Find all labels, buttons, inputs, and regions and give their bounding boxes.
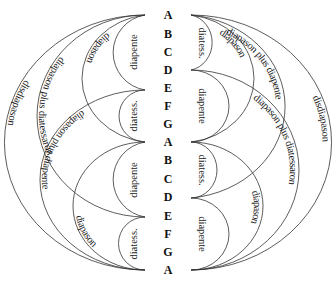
left-disdiapason-label: disdiapason bbox=[6, 79, 33, 128]
note-label: D bbox=[164, 63, 173, 77]
left-small-label: diatess. bbox=[128, 100, 139, 131]
right-disdiapason-label: disdiapason bbox=[311, 94, 332, 143]
right-diapason-lower-label: diapason bbox=[249, 189, 263, 226]
note-label: A bbox=[164, 135, 173, 149]
left-small-label: diatess. bbox=[128, 228, 139, 259]
note-label: E bbox=[164, 209, 172, 223]
right-diapente-arc-2 bbox=[191, 198, 229, 270]
note-label: C bbox=[164, 172, 173, 186]
interval-diagram: A B C D E F G A B C D E F G A diapente d… bbox=[0, 0, 336, 288]
right-small-label: diatess. bbox=[197, 154, 208, 185]
note-label: A bbox=[164, 263, 173, 277]
note-label: B bbox=[164, 27, 172, 41]
note-label: G bbox=[163, 245, 172, 259]
right-small-label: diatess. bbox=[197, 27, 208, 58]
note-label: F bbox=[164, 99, 171, 113]
note-label: F bbox=[164, 227, 171, 241]
right-small-label: diapente bbox=[197, 216, 208, 252]
note-label: B bbox=[164, 153, 172, 167]
left-small-label: diapente bbox=[128, 162, 139, 198]
right-diapason-plus-diatessaron-label: diapason plus diatessaron bbox=[252, 92, 299, 187]
note-label: G bbox=[163, 117, 172, 131]
note-label: E bbox=[164, 81, 172, 95]
right-small-label: diapente bbox=[197, 88, 208, 124]
note-label: D bbox=[164, 190, 173, 204]
left-small-label: diapente bbox=[128, 34, 139, 70]
left-diapason-upper-label: diapason bbox=[84, 31, 113, 66]
note-label: A bbox=[164, 8, 173, 22]
left-disdiapason-arc bbox=[4, 15, 145, 270]
note-column: A B C D E F G A B C D E F G A bbox=[163, 8, 172, 277]
note-label: C bbox=[164, 45, 173, 59]
